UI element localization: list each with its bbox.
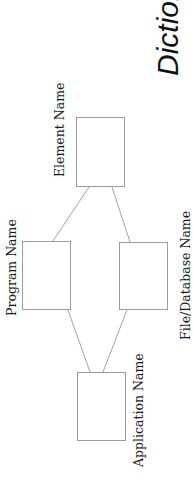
edge-element-program [53, 187, 89, 241]
node-application-label: Application Name [133, 353, 146, 467]
edge-program-application [68, 310, 90, 372]
node-application-box [77, 372, 126, 441]
edge-file-application [103, 310, 127, 372]
node-file-box [119, 242, 168, 310]
edge-element-file [112, 187, 130, 242]
diagram-canvas: Dictionary Element Name Program Name Fil… [0, 0, 193, 486]
diagram-title: Dictionary [153, 0, 183, 76]
node-element-box [76, 117, 125, 187]
node-element-label: Element Name [54, 83, 67, 177]
node-program-box [22, 241, 71, 310]
node-program-label: Program Name [6, 219, 19, 316]
node-file-label: File/Database Name [180, 211, 193, 340]
